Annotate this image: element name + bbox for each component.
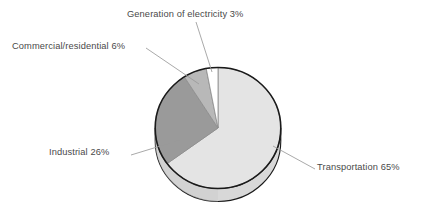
pie-chart-graphic (0, 0, 429, 215)
leader-line-transportation (273, 146, 315, 169)
leader-line-commercial (146, 48, 199, 84)
pie-chart: Generation of electricity 3% Commercial/… (0, 0, 429, 215)
leader-line-generation (196, 22, 212, 72)
pie-label-commercial-residential: Commercial/residential 6% (12, 41, 125, 52)
pie-label-generation-of-electricity: Generation of electricity 3% (127, 9, 243, 20)
pie-label-transportation: Transportation 65% (317, 162, 400, 173)
pie-label-industrial: Industrial 26% (49, 147, 109, 158)
